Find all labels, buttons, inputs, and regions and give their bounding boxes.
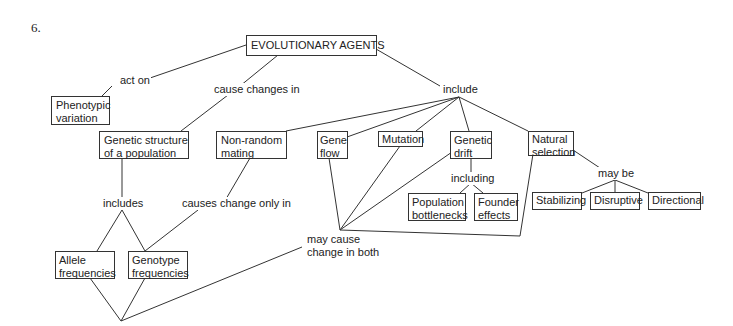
link-causes-change-only-in: causes change only in <box>181 197 292 210</box>
node-line: selection <box>532 146 570 159</box>
node-line: effects <box>478 209 514 222</box>
node-evolutionary-agents: EVOLUTIONARY AGENTS <box>246 35 377 56</box>
node-genetic-drift: Genetic drift <box>450 131 492 159</box>
link-include: include <box>442 83 479 96</box>
node-line: drift <box>454 147 488 160</box>
node-line: of a population <box>104 147 184 160</box>
node-gene-flow: Gene flow <box>317 131 348 159</box>
label-line: change in both <box>307 246 379 259</box>
link-cause-changes-in: cause changes in <box>213 83 301 96</box>
node-non-random-mating: Non-random mating <box>216 131 287 159</box>
node-allele-frequencies: Allele frequencies <box>55 251 115 279</box>
node-line: frequencies <box>59 267 111 280</box>
node-line: Non-random <box>221 134 282 147</box>
node-genetic-structure: Genetic structure of a population <box>99 131 189 159</box>
node-line: variation <box>56 112 105 125</box>
link-may-be: may be <box>597 167 635 180</box>
node-genotype-frequencies: Genotype frequencies <box>128 251 188 279</box>
node-line: bottlenecks <box>412 209 462 222</box>
node-founder-effects: Founder effects <box>474 193 518 221</box>
link-may-cause-change-in-both: may cause change in both <box>306 233 380 259</box>
node-line: Natural <box>532 133 570 146</box>
link-including: including <box>450 172 495 185</box>
node-line: frequencies <box>132 267 184 280</box>
node-line: Genetic <box>454 134 488 147</box>
label-line: may cause <box>307 233 379 246</box>
node-line: mating <box>221 147 282 160</box>
node-line: Genotype <box>132 254 184 267</box>
node-mutation: Mutation <box>378 131 423 147</box>
node-disruptive: Disruptive <box>590 192 640 210</box>
question-number: 6. <box>31 20 41 36</box>
node-stabilizing: Stabilizing <box>532 192 582 210</box>
node-line: Genetic structure <box>104 134 184 147</box>
node-line: Founder <box>478 196 514 209</box>
node-line: flow <box>320 147 345 160</box>
node-directional: Directional <box>648 192 701 210</box>
node-line: Allele <box>59 254 111 267</box>
link-act-on: act on <box>119 74 151 87</box>
node-phenotypic-variation: Phenotypic variation <box>51 96 110 125</box>
node-line: Population <box>412 196 462 209</box>
node-line: Phenotypic <box>56 99 105 112</box>
node-line: Gene <box>320 134 345 147</box>
node-natural-selection: Natural selection <box>528 131 574 156</box>
node-population-bottlenecks: Population bottlenecks <box>408 193 466 221</box>
link-includes: includes <box>102 197 144 210</box>
